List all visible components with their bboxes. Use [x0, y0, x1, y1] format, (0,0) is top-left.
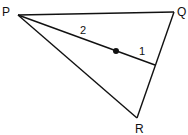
diagram-canvas: P Q R 2 1	[0, 0, 188, 135]
vertex-label-q: Q	[177, 5, 186, 19]
side-pr	[18, 15, 137, 118]
triangle-diagram: P Q R 2 1	[0, 0, 188, 135]
median-segment	[18, 15, 155, 65]
vertex-label-p: P	[2, 5, 10, 19]
vertex-label-r: R	[135, 122, 144, 135]
segment-label-1: 1	[139, 45, 145, 57]
side-qr	[137, 12, 174, 118]
centroid-dot	[113, 48, 119, 54]
segment-label-2: 2	[80, 24, 86, 36]
side-pq	[18, 12, 174, 15]
